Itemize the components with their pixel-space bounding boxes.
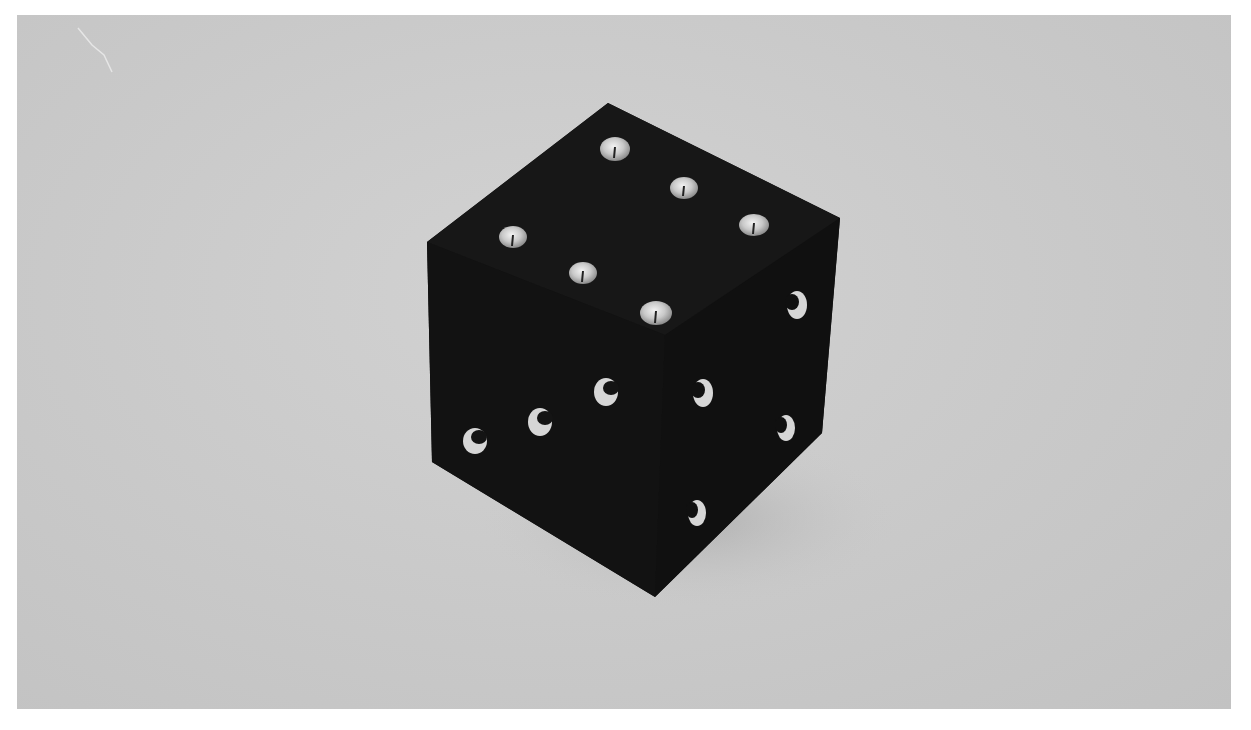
scratch-mark (78, 28, 112, 72)
photograph (17, 15, 1231, 709)
stud-icon (670, 177, 698, 199)
stud-icon (739, 214, 769, 236)
stud-icon (569, 262, 597, 284)
stud-icon (600, 137, 630, 161)
stud-icon (463, 428, 487, 454)
cube-scene (17, 15, 1231, 709)
stud-icon (499, 226, 527, 248)
stud-icon (640, 301, 672, 325)
